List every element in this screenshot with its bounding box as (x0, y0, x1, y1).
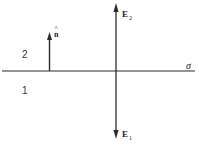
e1-label-sub: 1 (129, 135, 132, 141)
arrow-up-icon (114, 3, 119, 12)
interface-label: σ (186, 60, 192, 71)
boundary-diagram: σ 2 1 n ^ E 2 E 1 (0, 0, 199, 145)
e2-label-sub: 2 (129, 15, 132, 21)
region-2-label: 2 (22, 49, 28, 60)
region-1-label: 1 (22, 85, 28, 96)
normal-vector-arrow-icon (47, 32, 52, 71)
e1-label-base: E (122, 129, 128, 139)
arrow-down-icon (114, 130, 119, 139)
e2-label-base: E (122, 9, 128, 19)
